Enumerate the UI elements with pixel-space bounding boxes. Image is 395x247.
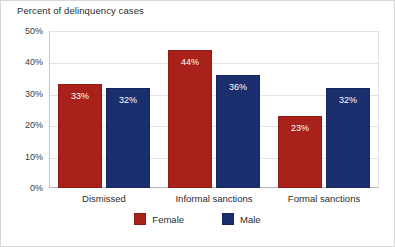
bar-value-label: 36% [217, 82, 259, 92]
bar-value-label: 23% [279, 123, 321, 133]
chart-title: Percent of delinquency cases [17, 5, 144, 16]
bar-value-label: 32% [107, 95, 149, 105]
bar-value-label: 44% [169, 57, 211, 67]
y-axis-tick-label: 20% [3, 120, 43, 130]
bar-male-informal-sanctions: 36% [216, 75, 260, 188]
bar-female-dismissed: 33% [58, 84, 102, 188]
y-axis-tick-label: 40% [3, 57, 43, 67]
legend-item-male[interactable]: Male [222, 213, 261, 225]
bar-male-formal-sanctions: 32% [326, 88, 370, 188]
y-axis-tick-label: 50% [3, 26, 43, 36]
bar-female-formal-sanctions: 23% [278, 116, 322, 188]
legend-label: Female [152, 214, 184, 225]
chart-figure: Percent of delinquency cases 0%10%20%30%… [0, 0, 395, 247]
legend-swatch-icon [134, 213, 146, 225]
bar-value-label: 33% [59, 91, 101, 101]
y-axis-tick-label: 0% [3, 183, 43, 193]
category-label: Informal sanctions [175, 193, 252, 204]
bar-value-label: 32% [327, 95, 369, 105]
bar-male-dismissed: 32% [106, 88, 150, 188]
category-label: Dismissed [82, 193, 126, 204]
bars-layer: 33%32%44%36%23%32% [49, 31, 379, 188]
legend-swatch-icon [222, 213, 234, 225]
chart-legend: FemaleMale [1, 213, 394, 225]
legend-item-female[interactable]: Female [134, 213, 184, 225]
bar-female-informal-sanctions: 44% [168, 50, 212, 188]
legend-label: Male [240, 214, 261, 225]
y-axis-tick-label: 10% [3, 152, 43, 162]
category-label: Formal sanctions [288, 193, 360, 204]
y-axis-tick-label: 30% [3, 89, 43, 99]
